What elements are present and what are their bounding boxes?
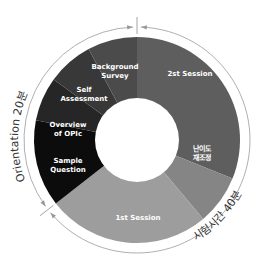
center-hole	[95, 98, 179, 182]
label-overview-of-opic: Overviewof OPIc	[50, 121, 87, 138]
phase-label-orientation: Orientation 20분	[8, 89, 30, 183]
opic-test-structure-diagram: 2st Session난이도재조정1st SessionSampleQuesti…	[0, 0, 274, 275]
label-2st-session: 2st Session	[167, 70, 212, 78]
label-1st-session: 1st Session	[115, 214, 160, 222]
arrowhead-icon	[40, 200, 45, 206]
label-sample-question: SampleQuestion	[50, 157, 85, 174]
arrowhead-icon	[141, 25, 147, 29]
arrowhead-icon	[127, 25, 133, 29]
